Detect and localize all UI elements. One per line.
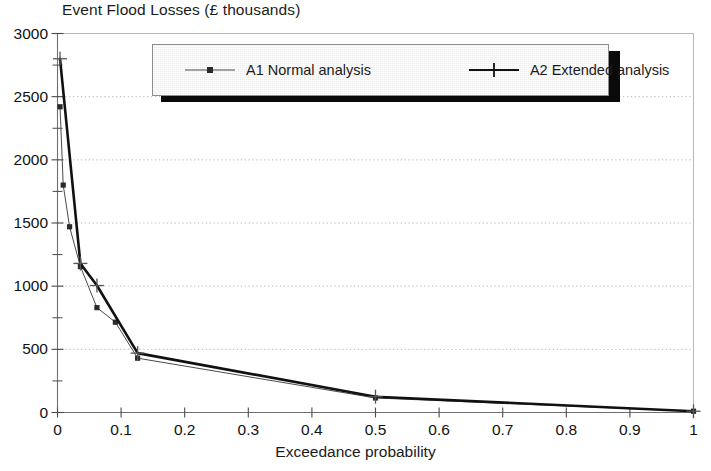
x-tick-label: 0.7 xyxy=(483,422,523,438)
series-2 xyxy=(53,52,700,418)
legend-label-a2: A2 Extended analysis xyxy=(530,62,669,78)
series-1 xyxy=(57,104,696,414)
chart-legend: A1 Normal analysis A2 Extended analysis xyxy=(152,44,609,96)
x-axis-title: Exceedance probability xyxy=(0,443,711,461)
x-tick-label: 0.6 xyxy=(419,422,459,438)
x-tick-label: 0.3 xyxy=(228,422,268,438)
x-tick-label: 0 xyxy=(38,422,78,438)
legend-label-a1: A1 Normal analysis xyxy=(246,62,371,78)
x-tick-label: 0.2 xyxy=(165,422,205,438)
series-layer xyxy=(53,52,700,418)
y-tick-label: 0 xyxy=(0,405,48,421)
y-tick-label: 2500 xyxy=(0,89,48,105)
y-tick-label: 1000 xyxy=(0,278,48,294)
legend-item-a1: A1 Normal analysis xyxy=(183,62,371,78)
x-tick-label: 0.1 xyxy=(101,422,141,438)
y-tick-label: 500 xyxy=(0,341,48,357)
x-tick-label: 0.9 xyxy=(610,422,650,438)
y-tick-label: 2000 xyxy=(0,152,48,168)
legend-key-square-icon xyxy=(183,62,237,78)
legend-key-plus-icon xyxy=(467,62,521,78)
y-tick-label: 3000 xyxy=(0,26,48,42)
x-tick-label: 1 xyxy=(674,422,711,438)
chart-figure: Event Flood Losses (£ thousands) 0500100… xyxy=(0,0,711,471)
legend-item-a2: A2 Extended analysis xyxy=(467,62,669,78)
y-tick-label: 1500 xyxy=(0,215,48,231)
x-tick-label: 0.4 xyxy=(292,422,332,438)
x-tick-label: 0.5 xyxy=(356,422,396,438)
x-tick-label: 0.8 xyxy=(546,422,586,438)
